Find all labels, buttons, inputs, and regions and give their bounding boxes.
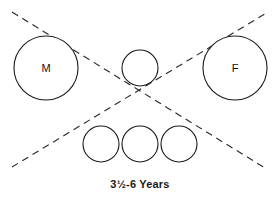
family-diagram: M F 3½-6 Years (0, 0, 280, 201)
node-child-top-center[interactable] (122, 50, 158, 86)
circle-child-bottom-left[interactable] (83, 126, 119, 162)
label-male-parent: M (41, 62, 50, 74)
diagram-caption: 3½-6 Years (0, 178, 280, 190)
circle-child-top-center[interactable] (122, 50, 158, 86)
circle-child-bottom-mid[interactable] (122, 126, 158, 162)
node-child-bottom-left[interactable] (83, 126, 119, 162)
node-female-parent[interactable]: F (203, 36, 267, 100)
diagram-canvas: M F (0, 0, 280, 201)
label-female-parent: F (232, 62, 239, 74)
node-child-bottom-mid[interactable] (122, 126, 158, 162)
circle-child-bottom-right[interactable] (161, 126, 197, 162)
node-child-bottom-right[interactable] (161, 126, 197, 162)
node-male-parent[interactable]: M (14, 36, 78, 100)
